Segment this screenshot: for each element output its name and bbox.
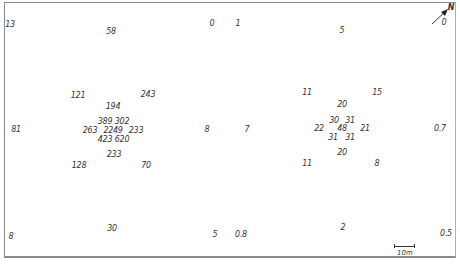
value-label: 194: [106, 103, 120, 111]
value-label: 13: [5, 21, 15, 29]
value-label: 0.5: [440, 230, 452, 238]
value-label: 243: [141, 91, 155, 99]
value-label: 128: [72, 162, 86, 170]
value-label: 81: [11, 126, 21, 134]
north-value: 0: [442, 19, 447, 27]
value-label: 0.7: [434, 125, 446, 133]
value-label: 11: [302, 89, 312, 97]
value-label: 5: [340, 27, 345, 35]
map-frame: [4, 2, 456, 258]
value-label: 8: [375, 160, 380, 168]
north-label: N: [448, 4, 454, 12]
value-label: 302: [115, 118, 129, 126]
value-label: 30: [107, 225, 117, 233]
value-label: 423: [98, 136, 112, 144]
value-label: 2: [341, 224, 346, 232]
value-label: 0.8: [235, 231, 247, 239]
value-label: 20: [337, 149, 347, 157]
scale-tick-left: [394, 244, 395, 248]
value-label: 15: [372, 89, 382, 97]
north-arrow: N 0: [426, 2, 456, 30]
value-label: 2249: [103, 127, 122, 135]
scale-label: 10m: [397, 249, 413, 257]
value-label: 1: [236, 20, 241, 28]
value-label: 263: [83, 127, 97, 135]
value-label: 48: [337, 125, 347, 133]
value-label: 22: [314, 125, 324, 133]
value-label: 0: [210, 20, 215, 28]
value-label: 5: [213, 231, 218, 239]
value-label: 31: [345, 134, 355, 142]
value-label: 11: [302, 160, 312, 168]
scale-line: [394, 246, 414, 247]
value-label: 8: [205, 126, 210, 134]
value-label: 121: [71, 92, 85, 100]
value-label: 70: [141, 162, 151, 170]
value-label: 233: [129, 127, 143, 135]
value-label: 21: [360, 125, 370, 133]
value-label: 233: [107, 151, 121, 159]
value-label: 20: [337, 101, 347, 109]
value-label: 58: [106, 28, 116, 36]
scale-tick-right: [414, 244, 415, 248]
value-label: 620: [115, 136, 129, 144]
value-label: 389: [98, 118, 112, 126]
scale-bar: 10m: [394, 244, 418, 258]
value-label: 8: [9, 233, 14, 241]
value-label: 7: [245, 126, 250, 134]
value-label: 31: [328, 134, 338, 142]
